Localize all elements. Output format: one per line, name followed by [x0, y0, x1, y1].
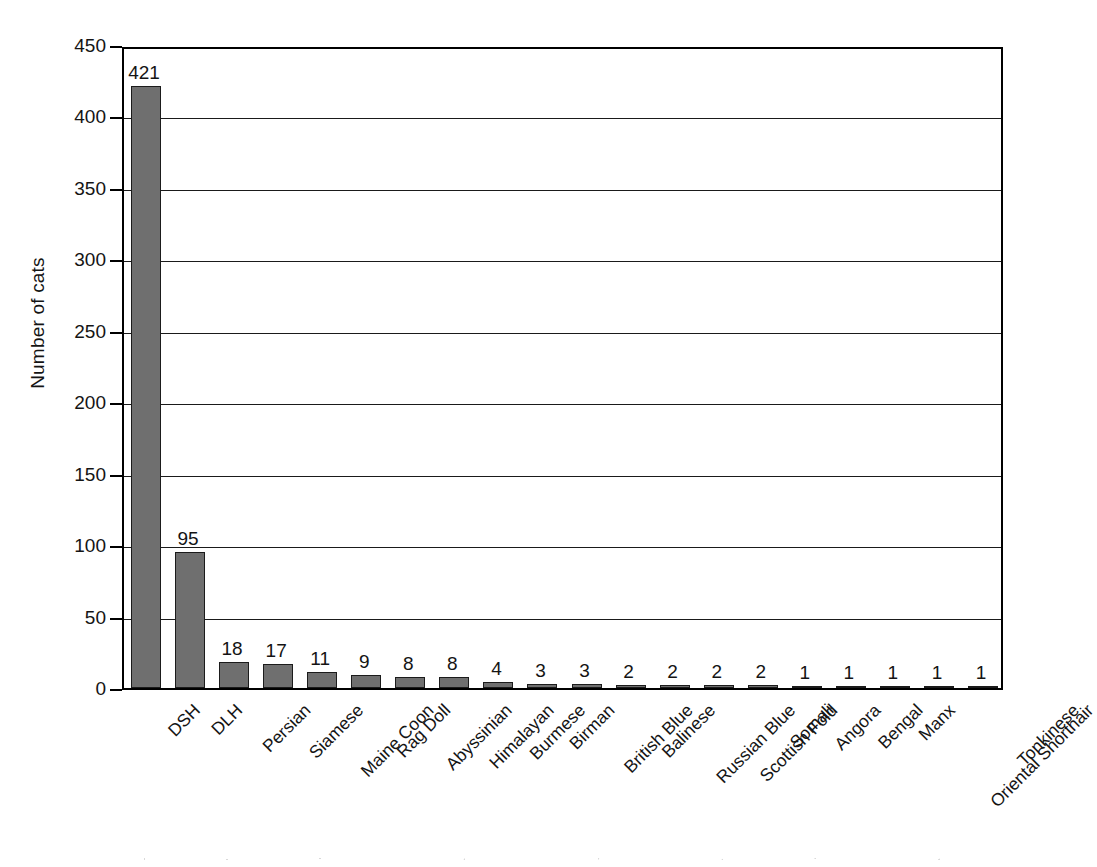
x-axis-category-label: Angora: [830, 700, 885, 755]
gridline: [124, 547, 1001, 548]
y-axis-tick-mark: [110, 546, 122, 548]
bar-value-label: 1: [951, 662, 1011, 684]
bar[interactable]: [616, 685, 646, 688]
bar[interactable]: [439, 677, 469, 688]
y-axis-tick-mark: [110, 618, 122, 620]
y-axis-tick-label: 100: [46, 535, 106, 557]
bar[interactable]: [175, 552, 205, 688]
gridline: [124, 190, 1001, 191]
bar[interactable]: [307, 672, 337, 688]
bar[interactable]: [483, 682, 513, 688]
bar[interactable]: [836, 686, 866, 689]
gridline: [124, 261, 1001, 262]
y-axis-tick-label: 350: [46, 178, 106, 200]
bar-value-label: 421: [114, 62, 174, 84]
y-axis-tick-label: 50: [46, 607, 106, 629]
y-axis-tick-mark: [110, 46, 122, 48]
plot-area: [122, 47, 1003, 690]
bar[interactable]: [131, 86, 161, 688]
scan-artifact: [0, 856, 1032, 862]
gridline: [124, 118, 1001, 119]
bar[interactable]: [527, 684, 557, 688]
y-axis-tick-mark: [110, 403, 122, 405]
y-axis-tick-mark: [110, 689, 122, 691]
gridline: [124, 333, 1001, 334]
bar[interactable]: [792, 686, 822, 689]
x-axis-category-label: DSH: [164, 700, 205, 741]
y-axis-tick-mark: [110, 475, 122, 477]
y-axis-tick-mark: [110, 260, 122, 262]
y-axis-tick-label: 200: [46, 392, 106, 414]
bar-value-label: 95: [158, 528, 218, 550]
bar[interactable]: [395, 677, 425, 688]
y-axis-tick-mark: [110, 189, 122, 191]
y-axis-tick-mark: [110, 332, 122, 334]
gridline: [124, 404, 1001, 405]
y-axis-tick-label: 0: [46, 678, 106, 700]
bar[interactable]: [572, 684, 602, 688]
bar[interactable]: [924, 686, 954, 689]
bar[interactable]: [968, 686, 998, 689]
bar[interactable]: [351, 675, 381, 688]
y-axis-tick-label: 150: [46, 464, 106, 486]
gridline: [124, 619, 1001, 620]
bar[interactable]: [219, 662, 249, 688]
bar[interactable]: [880, 686, 910, 689]
x-axis-category-label: DLH: [207, 700, 247, 740]
y-axis-tick-mark: [110, 117, 122, 119]
bar[interactable]: [263, 664, 293, 688]
x-axis-category-label: Manx: [914, 700, 959, 745]
y-axis-tick-label: 300: [46, 249, 106, 271]
bar[interactable]: [660, 685, 690, 688]
y-axis-tick-label: 250: [46, 321, 106, 343]
y-axis-tick-label: 400: [46, 106, 106, 128]
gridline: [124, 476, 1001, 477]
bar[interactable]: [748, 685, 778, 688]
y-axis-tick-label: 450: [46, 35, 106, 57]
x-axis-category-label: Siamese: [305, 700, 368, 763]
bar[interactable]: [704, 685, 734, 688]
